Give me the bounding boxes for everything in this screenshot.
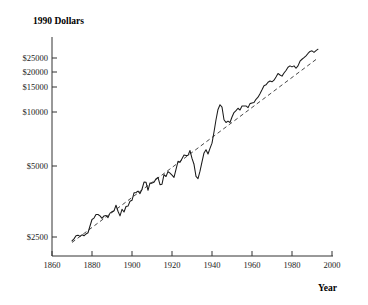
y-tick-label-15000: $15000 — [23, 82, 49, 92]
x-tick-label-1960: 1960 — [244, 260, 261, 270]
x-tick-marks — [52, 251, 332, 256]
chart-canvas: 1990 Dollars Year $25000 $20000 $15000 $… — [0, 0, 368, 305]
x-tick-label-2000: 2000 — [324, 260, 341, 270]
y-axis-title: 1990 Dollars — [33, 16, 84, 26]
x-tick-label-1900: 1900 — [124, 260, 141, 270]
x-tick-label-1920: 1920 — [164, 260, 181, 270]
x-axis-title: Year — [318, 283, 338, 293]
output-per-capita-series — [72, 49, 318, 241]
y-tick-label-25000: $25000 — [23, 53, 49, 63]
chart-figure: 1990 Dollars Year $25000 $20000 $15000 $… — [0, 0, 368, 305]
x-tick-label-1940: 1940 — [204, 260, 221, 270]
y-tick-label-10000: $10000 — [23, 107, 49, 117]
y-tick-label-2500: $2500 — [27, 232, 48, 242]
y-tick-labels: $25000 $20000 $15000 $10000 $5000 $2500 — [23, 53, 49, 242]
x-tick-labels: 1860 1880 1900 1920 1940 1960 1980 2000 — [44, 260, 341, 270]
x-tick-label-1980: 1980 — [284, 260, 301, 270]
y-tick-marks — [52, 58, 57, 237]
y-tick-label-20000: $20000 — [23, 67, 49, 77]
x-tick-label-1860: 1860 — [44, 260, 61, 270]
y-tick-label-5000: $5000 — [27, 161, 48, 171]
x-tick-label-1880: 1880 — [84, 260, 101, 270]
